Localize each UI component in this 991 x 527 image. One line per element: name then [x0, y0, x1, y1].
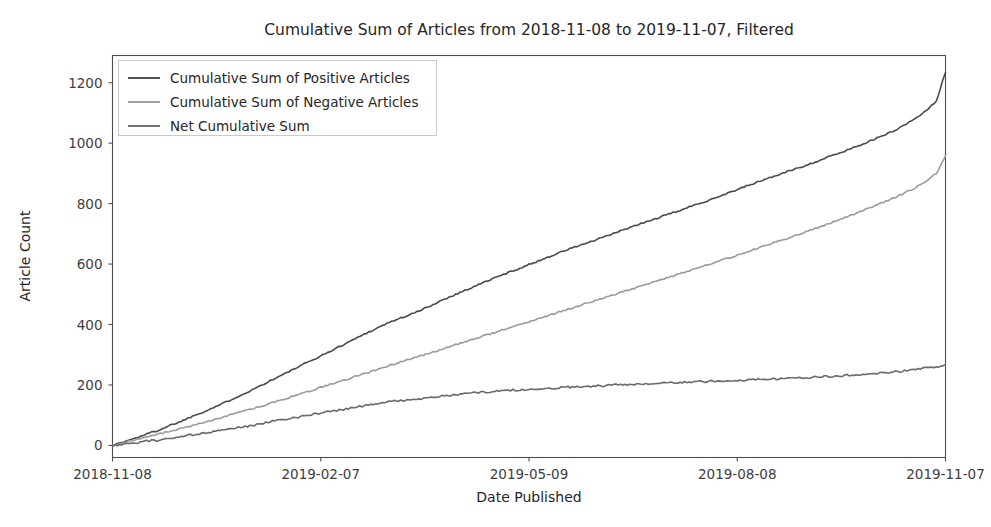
legend-label-3: Net Cumulative Sum	[170, 118, 310, 134]
y-tick-label: 800	[77, 196, 103, 212]
x-axis-label-group: Date Published	[476, 489, 581, 505]
y-tick-label: 200	[77, 377, 103, 393]
y-tick-label: 600	[77, 256, 103, 272]
chart-legend: Cumulative Sum of Positive ArticlesCumul…	[119, 61, 437, 136]
x-axis-ticks: 2018-11-082019-02-072019-05-092019-08-08…	[73, 458, 984, 482]
series-line-2	[113, 156, 946, 446]
series-line-3	[113, 364, 946, 446]
x-tick-label: 2019-11-07	[906, 466, 984, 482]
page-title: Cumulative Sum of Articles from 2018-11-…	[264, 21, 794, 39]
legend-label-2: Cumulative Sum of Negative Articles	[170, 94, 418, 110]
chart-title-group: Cumulative Sum of Articles from 2018-11-…	[264, 21, 794, 39]
y-tick-label: 0	[94, 437, 103, 453]
x-tick-label: 2018-11-08	[73, 466, 151, 482]
x-tick-label: 2019-05-09	[490, 466, 568, 482]
y-tick-label: 1200	[68, 75, 102, 91]
x-tick-label: 2019-02-07	[282, 466, 360, 482]
cumulative-sum-line-chart: Cumulative Sum of Articles from 2018-11-…	[0, 0, 991, 527]
y-tick-label: 400	[77, 317, 103, 333]
chart-figure: Cumulative Sum of Articles from 2018-11-…	[0, 0, 991, 527]
y-axis-label-group: Article Count	[17, 210, 33, 301]
y-axis-label: Article Count	[17, 210, 33, 301]
x-axis-label: Date Published	[476, 489, 581, 505]
y-axis-ticks: 020040060080010001200	[68, 75, 112, 454]
y-tick-label: 1000	[68, 135, 102, 151]
legend-label-1: Cumulative Sum of Positive Articles	[170, 70, 410, 86]
x-tick-label: 2019-08-08	[698, 466, 776, 482]
